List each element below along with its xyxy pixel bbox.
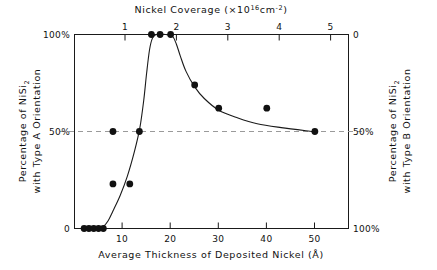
right-axis-title-subscript: 2 (393, 80, 401, 85)
right-tick-label-50: 50% (353, 127, 374, 137)
bottom-tick-label-20: 20 (164, 234, 176, 244)
data-point (110, 128, 117, 135)
left-axis-title-line2: with Type A Orientation (31, 69, 42, 194)
top-tick-label-3: 3 (225, 22, 231, 32)
right-tick-label-0: 0 (353, 30, 359, 40)
data-point (148, 31, 155, 38)
right-tick-label-100: 100% (353, 224, 380, 234)
top-tick-label-1: 1 (122, 22, 128, 32)
left-axis-title-line1: Percentage of NiSi2 (17, 80, 31, 183)
chart-canvas: 10 20 30 40 50 1 2 3 4 5 100% 50% 0 0 50… (0, 0, 437, 270)
left-tick-label-100: 100% (43, 30, 70, 40)
top-axis-title: Nickel Coverage (×1016cm-2) (134, 4, 287, 16)
top-axis-title-mid: cm (260, 4, 276, 15)
top-axis-title-end: ) (283, 4, 287, 15)
bottom-tick-label-30: 30 (212, 234, 224, 244)
chart-figure: 10 20 30 40 50 1 2 3 4 5 100% 50% 0 0 50… (0, 0, 437, 270)
bottom-axis-title: Average Thickness of Deposited Nickel (Å… (98, 249, 324, 260)
data-point (215, 105, 222, 112)
left-axis-title-text: Percentage of NiSi (17, 84, 28, 182)
data-point (136, 128, 143, 135)
top-axis-ticks (125, 35, 331, 41)
right-axis-title-line1: Percentage of NiSi2 (387, 80, 401, 183)
data-point (110, 180, 117, 187)
right-axis-title-text: Percentage of NiSi (387, 84, 398, 182)
data-point (311, 128, 318, 135)
top-axis-title-exponent: 16 (250, 4, 259, 12)
data-point (100, 225, 107, 232)
top-tick-label-2: 2 (173, 22, 179, 32)
data-point (157, 31, 164, 38)
top-axis-title-main: Nickel Coverage (×10 (134, 4, 250, 15)
bottom-tick-label-40: 40 (260, 234, 272, 244)
bottom-tick-label-50: 50 (308, 234, 320, 244)
left-tick-label-50: 50% (49, 127, 70, 137)
data-point (167, 31, 174, 38)
top-tick-label-5: 5 (328, 22, 334, 32)
right-axis-title-line2: with Type B Orientation (401, 69, 412, 194)
left-axis-title-subscript: 2 (23, 80, 31, 85)
data-point (191, 82, 198, 89)
top-tick-label-4: 4 (276, 22, 282, 32)
data-point (126, 180, 133, 187)
left-tick-label-0: 0 (64, 224, 70, 234)
bottom-axis-ticks (122, 223, 314, 229)
data-point (263, 105, 270, 112)
bottom-tick-label-10: 10 (116, 234, 128, 244)
top-axis-title-exponent2: -2 (276, 4, 284, 12)
